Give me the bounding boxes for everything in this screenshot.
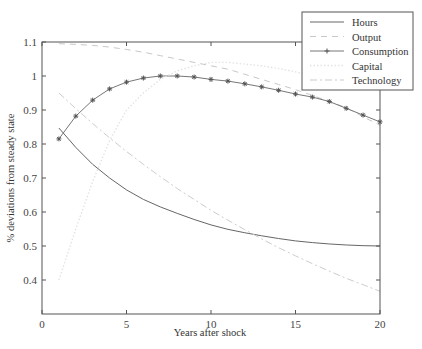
consumption-marker [225,79,230,84]
y-tick-label: 0.9 [23,104,37,116]
x-tick-label: 0 [39,318,45,330]
legend-entry-capital: Capital [352,61,382,72]
consumption-marker [242,81,247,86]
y-tick-label: 0.7 [23,172,37,184]
consumption-marker [56,136,61,141]
series-technology [59,93,380,291]
consumption-marker [209,77,214,82]
consumption-marker [293,92,298,97]
y-tick-label: 0.8 [23,138,37,150]
consumption-marker [344,106,349,111]
consumption-marker [310,95,315,100]
x-tick-label: 20 [375,318,387,330]
line-chart: 051015200.40.50.60.70.80.911.1 HoursOutp… [0,0,422,349]
legend-entry-technology: Technology [352,75,402,86]
consumption-marker [107,86,112,91]
consumption-marker [276,88,281,93]
consumption-marker [361,113,366,118]
y-tick-label: 1.1 [23,36,37,48]
legend-entry-hours: Hours [352,17,378,28]
consumption-marker [259,84,264,89]
y-axis-label: % deviations from steady state [5,113,16,242]
x-tick-label: 5 [124,318,130,330]
consumption-marker [175,74,180,79]
series-capital [59,62,380,280]
y-tick-label: 1 [32,70,38,82]
y-tick-label: 0.5 [23,240,37,252]
x-tick-label: 15 [290,318,302,330]
legend: HoursOutputConsumptionCapitalTechnology [302,12,413,90]
y-tick-label: 0.4 [23,274,37,286]
legend-entry-consumption: Consumption [352,46,409,57]
consumption-marker [90,98,95,103]
x-axis-label: Years after shock [174,327,247,338]
consumption-marker [327,99,332,104]
consumption-marker [141,76,146,81]
legend-entry-output: Output [352,32,381,43]
y-tick-label: 0.6 [23,206,37,218]
consumption-marker [73,114,78,119]
consumption-marker [192,75,197,80]
consumption-marker [124,80,129,85]
series-hours [59,128,380,246]
